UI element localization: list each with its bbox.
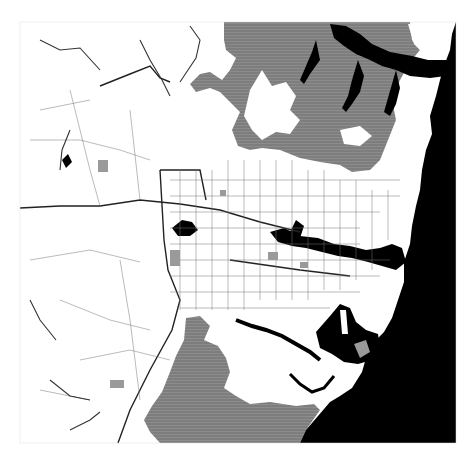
lake-small [62,154,72,168]
map-frame[interactable]: Regional map (greyscale) — urban area wi… [0,0,476,460]
harbour [270,228,406,270]
map-canvas[interactable] [0,0,476,460]
suburb-lobe [228,354,262,384]
southern-river [236,320,320,360]
southern-inlet [290,374,334,392]
northern-bushland [190,22,420,172]
